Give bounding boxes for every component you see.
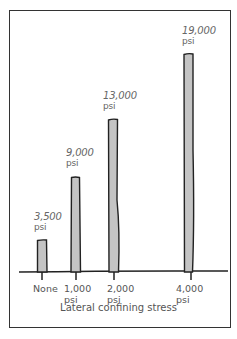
- bar-4000: [184, 54, 194, 272]
- bar-none: [38, 240, 48, 272]
- bar-label-none: 3,500 psi: [34, 211, 62, 233]
- bar-label-4000: 19,000 psi: [182, 25, 216, 47]
- x-axis-line: [19, 271, 228, 272]
- bar-label-2000: 13,000 psi: [103, 90, 137, 112]
- x-axis-title: Lateral confining stress: [0, 302, 237, 313]
- bar-1000: [71, 177, 81, 272]
- bar-label-1000: 9,000 psi: [66, 147, 94, 169]
- tick-label-none: None: [33, 283, 58, 294]
- bar-2000: [109, 119, 120, 272]
